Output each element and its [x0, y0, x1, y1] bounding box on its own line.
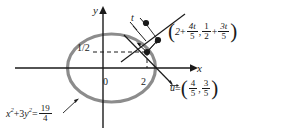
point-frac-y2: 3t5	[218, 22, 229, 41]
t-tick-start	[130, 22, 137, 30]
point-offset-1	[155, 37, 161, 43]
point-offset-2	[143, 20, 149, 26]
ellipse-equation-label: x2+3y2=194	[6, 104, 53, 123]
y-axis-label: y	[93, 5, 98, 16]
point-frac-y1: 12	[202, 22, 211, 41]
vector-arrow-icon	[170, 83, 179, 87]
origin-label: 0	[103, 77, 108, 87]
vector-open-paren: (	[181, 76, 188, 100]
y-axis-arrowhead	[99, 6, 107, 14]
vector-frac-1-denominator: 5	[189, 89, 198, 98]
x-axis-label: x	[197, 63, 202, 74]
point-comma: ,	[199, 26, 202, 37]
vector-frac-1: 45	[189, 79, 198, 98]
equation-leader-line	[63, 100, 77, 113]
vector-frac-2: 35	[202, 79, 211, 98]
vector-comma: ,	[198, 83, 201, 94]
vector-frac-2-denominator: 5	[202, 89, 211, 98]
point-tangent	[144, 49, 150, 55]
vector-label: u=(45,35)	[170, 79, 218, 98]
point-plus-x: +	[180, 26, 186, 37]
math-figure: y x 0 2 1/2 t (2+4t5,12+3t5) u=(45,35) x…	[0, 0, 284, 132]
vector-symbol-u: u	[170, 83, 175, 93]
equation-frac: 194	[39, 104, 52, 123]
point-open-paren: (	[168, 19, 175, 43]
point-frac-y2-denominator: 5	[218, 32, 229, 41]
x-tick-label: 2	[141, 77, 146, 87]
point-close-paren: )	[230, 19, 237, 43]
parameter-t-label: t	[131, 13, 134, 23]
equation-equals: =	[32, 108, 38, 119]
equation-frac-denominator: 4	[39, 114, 52, 123]
point-plus-y: +	[212, 26, 218, 37]
point-frac-x-denominator: 5	[187, 32, 198, 41]
vector-close-paren: )	[211, 76, 218, 100]
point-frac-x: 4t5	[187, 22, 198, 41]
point-coordinate-label: (2+4t5,12+3t5)	[168, 22, 237, 41]
point-frac-y1-denominator: 2	[202, 32, 211, 41]
y-tick-label: 1/2	[77, 43, 90, 53]
